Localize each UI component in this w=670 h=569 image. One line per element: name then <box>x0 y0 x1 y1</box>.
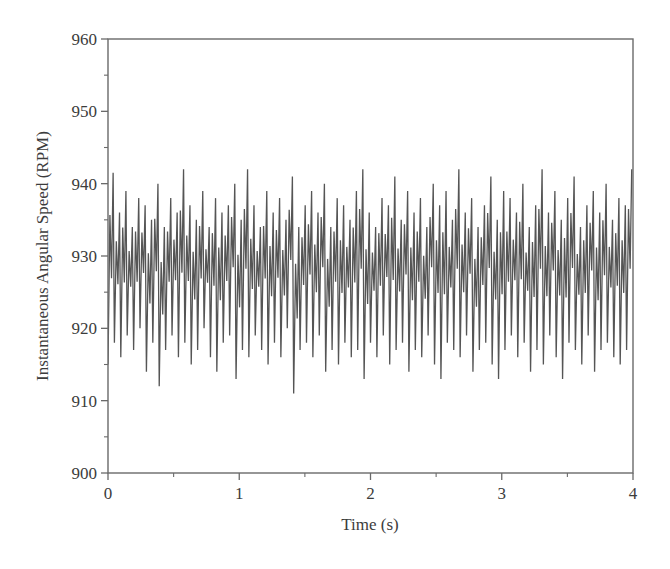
speed-signal-line <box>108 169 632 393</box>
y-tick-label: 900 <box>72 464 98 483</box>
y-axis: 900910920930940950960 <box>72 30 109 483</box>
angular-speed-chart: 01234 900910920930940950960 Time (s) Ins… <box>0 0 670 569</box>
x-tick-label: 2 <box>366 484 375 503</box>
x-axis: 01234 <box>104 473 638 503</box>
y-tick-label: 920 <box>72 319 98 338</box>
y-tick-label: 950 <box>72 102 98 121</box>
y-tick-label: 960 <box>72 30 98 49</box>
x-tick-label: 1 <box>235 484 244 503</box>
y-tick-label: 940 <box>72 175 98 194</box>
x-axis-label: Time (s) <box>341 515 398 534</box>
y-axis-label: Instantaneous Angular Speed (RPM) <box>33 131 52 381</box>
y-tick-label: 910 <box>72 392 98 411</box>
x-tick-label: 4 <box>629 484 638 503</box>
y-tick-label: 930 <box>72 247 98 266</box>
x-tick-label: 0 <box>104 484 113 503</box>
x-tick-label: 3 <box>498 484 507 503</box>
plot-area <box>108 169 632 393</box>
